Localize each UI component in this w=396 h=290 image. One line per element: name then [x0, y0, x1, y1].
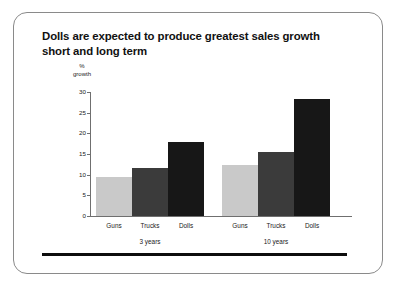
bar-10-years-guns: [222, 165, 258, 216]
slide-frame: Dolls are expected to produce greatest s…: [13, 12, 383, 274]
x-axis-category-label: Dolls: [168, 222, 204, 230]
bar-3-years-dolls: [168, 142, 204, 216]
x-axis-group-label: 10 years: [222, 238, 330, 246]
x-axis-category-label: Dolls: [294, 222, 330, 230]
bottom-rule: [42, 253, 347, 256]
bar-3-years-guns: [96, 177, 132, 216]
bars-layer: [14, 13, 384, 275]
bar-3-years-trucks: [132, 168, 168, 216]
x-axis-category-label: Guns: [222, 222, 258, 230]
x-axis-category-label: Trucks: [258, 222, 294, 230]
bar-10-years-dolls: [294, 99, 330, 216]
x-axis-category-label: Trucks: [132, 222, 168, 230]
x-axis-group-label: 3 years: [96, 238, 204, 246]
bar-chart: % growth 051015202530 GunsTrucksDollsGun…: [14, 13, 384, 275]
bar-10-years-trucks: [258, 152, 294, 216]
x-axis-category-label: Guns: [96, 222, 132, 230]
